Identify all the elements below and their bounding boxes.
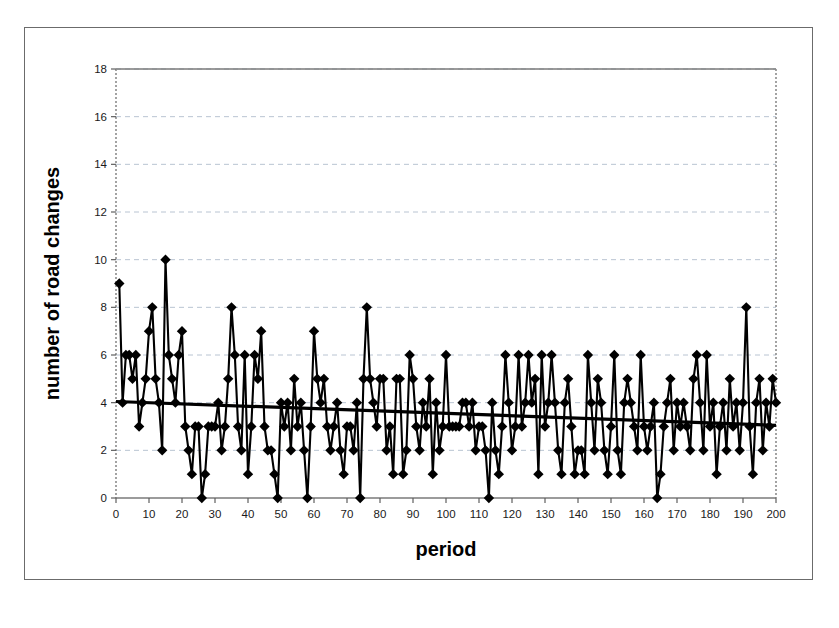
data-point [117, 397, 127, 407]
data-point [764, 421, 774, 431]
data-point [530, 374, 540, 384]
y-tick-label-2: 2 [101, 444, 107, 456]
data-point [362, 302, 372, 312]
data-point [758, 445, 768, 455]
data-point [411, 421, 421, 431]
data-point [315, 397, 325, 407]
x-tick-label-90: 90 [407, 508, 420, 520]
data-point [632, 445, 642, 455]
data-point [348, 445, 358, 455]
data-point [197, 493, 207, 503]
data-point [480, 445, 490, 455]
data-point [702, 350, 712, 360]
data-point [484, 493, 494, 503]
data-point [563, 374, 573, 384]
data-point [352, 397, 362, 407]
data-point [292, 421, 302, 431]
data-point [141, 374, 151, 384]
data-point [741, 302, 751, 312]
data-point [497, 421, 507, 431]
data-point [698, 445, 708, 455]
x-tick-label-170: 170 [667, 508, 686, 520]
y-tick-label-14: 14 [94, 158, 107, 170]
data-point [302, 493, 312, 503]
data-point [754, 374, 764, 384]
data-point [220, 421, 230, 431]
data-point [550, 397, 560, 407]
x-tick-label-100: 100 [436, 508, 455, 520]
y-tick-label-12: 12 [94, 206, 107, 218]
data-point [678, 397, 688, 407]
y-tick-label-16: 16 [94, 111, 107, 123]
data-point [570, 469, 580, 479]
data-point [309, 326, 319, 336]
data-point [626, 397, 636, 407]
x-tick-label-150: 150 [601, 508, 620, 520]
data-point [589, 445, 599, 455]
y-tick-label-6: 6 [101, 349, 107, 361]
data-point [748, 469, 758, 479]
data-point [636, 350, 646, 360]
data-point [523, 350, 533, 360]
data-point [533, 469, 543, 479]
data-point [372, 421, 382, 431]
x-tick-label-20: 20 [176, 508, 189, 520]
road-changes-line-chart: 0246810121416180102030405060708090100110… [25, 28, 814, 581]
data-point [603, 469, 613, 479]
data-point [464, 421, 474, 431]
data-point [421, 421, 431, 431]
data-point [296, 397, 306, 407]
data-point [649, 397, 659, 407]
x-tick-label-190: 190 [733, 508, 752, 520]
data-point [226, 302, 236, 312]
x-tick-label-40: 40 [242, 508, 255, 520]
data-point [513, 350, 523, 360]
data-point [319, 374, 329, 384]
data-point [725, 374, 735, 384]
data-point [418, 397, 428, 407]
data-point [771, 397, 781, 407]
data-point [688, 374, 698, 384]
data-point [721, 445, 731, 455]
data-point [335, 445, 345, 455]
data-point [471, 445, 481, 455]
data-point [157, 445, 167, 455]
data-point [556, 469, 566, 479]
data-point [183, 445, 193, 455]
data-point [593, 374, 603, 384]
data-point [134, 421, 144, 431]
data-point [306, 421, 316, 431]
data-point [249, 350, 259, 360]
x-tick-label-160: 160 [634, 508, 653, 520]
x-tick-label-50: 50 [275, 508, 288, 520]
data-point [256, 326, 266, 336]
x-tick-label-110: 110 [470, 508, 488, 520]
x-tick-label-70: 70 [341, 508, 354, 520]
data-point [606, 421, 616, 431]
data-point [164, 350, 174, 360]
data-point [180, 421, 190, 431]
data-point [665, 374, 675, 384]
data-point [177, 326, 187, 336]
y-tick-label-8: 8 [101, 301, 107, 313]
x-tick-label-0: 0 [113, 508, 119, 520]
data-point [546, 350, 556, 360]
data-point [414, 445, 424, 455]
data-point [692, 350, 702, 360]
data-point [735, 445, 745, 455]
data-point [738, 397, 748, 407]
data-point [150, 374, 160, 384]
data-point [504, 397, 514, 407]
data-point [240, 350, 250, 360]
data-point [642, 445, 652, 455]
y-tick-label-0: 0 [101, 492, 107, 504]
x-tick-label-140: 140 [568, 508, 587, 520]
data-point [230, 350, 240, 360]
data-point [289, 374, 299, 384]
x-tick-label-130: 130 [535, 508, 554, 520]
figure-border: 0246810121416180102030405060708090100110… [24, 27, 813, 580]
data-point [223, 374, 233, 384]
data-point [609, 350, 619, 360]
data-point [583, 350, 593, 360]
data-point [114, 278, 124, 288]
